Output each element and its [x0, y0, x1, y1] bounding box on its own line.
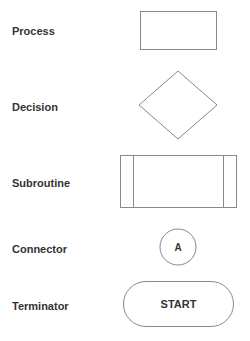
terminator-text: START: [161, 298, 197, 310]
subroutine-shape: [121, 156, 237, 208]
decision-shape: [139, 71, 217, 139]
symbols-canvas: A START: [0, 0, 250, 341]
connector-shape: A: [160, 229, 196, 265]
terminator-shape: START: [124, 282, 234, 327]
connector-text: A: [174, 242, 181, 253]
process-shape: [141, 12, 217, 50]
